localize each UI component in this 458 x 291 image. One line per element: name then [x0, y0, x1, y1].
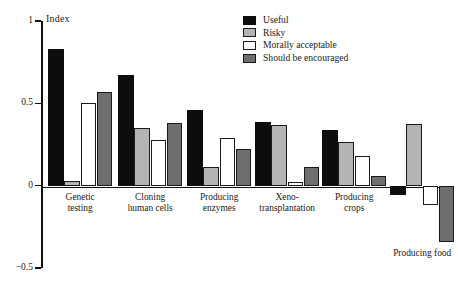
y-tick-label-wrap: 0: [0, 181, 33, 191]
bar-useful: [322, 130, 338, 186]
legend-swatch-risky: [243, 28, 256, 37]
y-tick-label: −0.5: [0, 263, 33, 273]
bar-encouraged: [371, 176, 387, 186]
bar-useful: [48, 49, 64, 186]
y-tick-label: 1: [0, 16, 33, 26]
legend-item: Risky: [243, 27, 348, 40]
legend-swatch-moral: [243, 41, 256, 50]
bar-risky: [338, 142, 354, 186]
bar-encouraged: [304, 167, 320, 186]
legend-item: Should be encouraged: [243, 52, 348, 65]
plot-area: [41, 21, 441, 268]
y-tick-label-wrap: 1: [0, 16, 33, 26]
bar-encouraged: [236, 149, 252, 185]
x-axis-label: Producing food: [372, 248, 458, 259]
bar-risky: [203, 167, 219, 186]
bar-moral: [220, 138, 236, 186]
bar-encouraged: [439, 186, 455, 242]
y-tick-label: 0: [0, 181, 33, 191]
bar-encouraged: [97, 92, 113, 186]
y-tick-label: 0.5: [0, 98, 33, 108]
legend-label: Morally acceptable: [263, 40, 337, 50]
chart-legend: UsefulRiskyMorally acceptableShould be e…: [243, 14, 348, 64]
bar-risky: [406, 124, 422, 186]
legend-label: Should be encouraged: [263, 53, 348, 63]
bar-encouraged: [167, 123, 183, 186]
legend-swatch-encouraged: [243, 54, 256, 63]
legend-item: Useful: [243, 14, 348, 27]
x-axis-label: Producing crops: [304, 192, 404, 214]
legend-label: Risky: [263, 28, 285, 38]
bar-risky: [134, 128, 150, 186]
bar-moral: [81, 103, 97, 185]
bar-moral: [355, 156, 371, 186]
bar-useful: [187, 110, 203, 186]
bar-moral: [288, 182, 304, 186]
bar-risky: [271, 125, 287, 186]
bar-risky: [64, 181, 80, 186]
bar-useful: [118, 75, 134, 185]
y-tick-label-wrap: −0.5: [0, 263, 33, 273]
legend-swatch-useful: [243, 16, 256, 25]
y-tick-label-wrap: 0.5: [0, 98, 33, 108]
bar-moral: [151, 140, 167, 186]
bar-useful: [255, 122, 271, 185]
legend-item: Morally acceptable: [243, 39, 348, 52]
legend-label: Useful: [263, 15, 289, 25]
bar-moral: [423, 186, 439, 206]
